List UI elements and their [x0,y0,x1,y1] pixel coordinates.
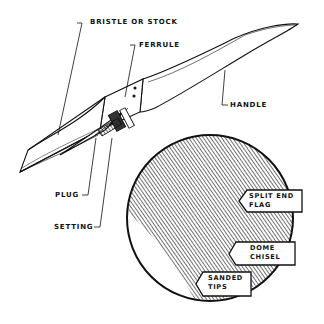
label-setting: SETTING [54,223,93,232]
label-bristle-or-stock: BRISTLE OR STOCK [90,18,178,27]
label-plug: PLUG [55,191,79,200]
tag-tips-line2: TIPS [208,283,243,292]
brush-handle [140,24,298,112]
tag-split-end-flag: SPLIT END FLAG [249,192,294,210]
tag-sanded-tips: SANDED TIPS [208,274,243,292]
tag-dome-line1: DOME [250,244,280,253]
tag-split-end-line2: FLAG [249,201,294,210]
brush-anatomy-diagram: BRISTLE OR STOCK FERRULE HANDLE PLUG SET… [0,0,324,324]
tag-sanded-line1: SANDED [208,274,243,283]
label-handle: HANDLE [230,101,267,110]
tag-split-end-line1: SPLIT END [249,192,294,201]
tag-dome-chisel: DOME CHISEL [250,244,280,262]
label-ferrule: FERRULE [139,41,180,50]
tag-chisel-line2: CHISEL [250,253,280,262]
